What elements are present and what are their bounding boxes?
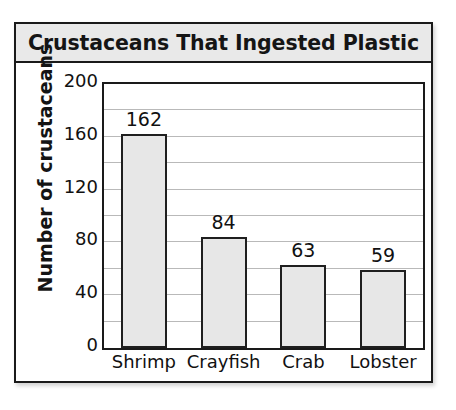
y-tick-label: 160 <box>52 125 98 143</box>
chart-title-band: Crustaceans That Ingested Plastic <box>16 24 431 63</box>
x-tick-label-crab: Crab <box>258 353 348 371</box>
bar-crayfish <box>201 237 247 348</box>
y-tick-label: 40 <box>52 283 98 301</box>
x-tick-label-crayfish: Crayfish <box>179 353 269 371</box>
plot-area: 162846359 <box>102 82 425 350</box>
x-axis-tick-labels: ShrimpCrayfishCrabLobster <box>102 353 425 379</box>
x-tick-label-shrimp: Shrimp <box>99 353 189 371</box>
y-tick-label: 0 <box>52 336 98 354</box>
bar-group: 84 <box>201 84 247 348</box>
bar-group: 162 <box>121 84 167 348</box>
y-tick-label: 120 <box>52 178 98 196</box>
bar-shrimp <box>121 134 167 348</box>
page-title: Crustaceans That Ingested Plastic <box>28 31 419 55</box>
y-axis-tick-labels: 20016012080400 <box>48 82 98 346</box>
bar-value-label: 162 <box>126 110 162 129</box>
bar-group: 59 <box>360 84 406 348</box>
bar-value-label: 84 <box>212 213 236 232</box>
y-tick-label: 80 <box>52 230 98 248</box>
chart-body: Number of crustaceans 20016012080400 162… <box>16 63 431 381</box>
chart-card: Crustaceans That Ingested Plastic Number… <box>14 22 433 383</box>
bar-group: 63 <box>280 84 326 348</box>
bars-layer: 162846359 <box>104 84 423 348</box>
bar-value-label: 59 <box>371 246 395 265</box>
x-tick-label-lobster: Lobster <box>338 353 428 371</box>
bar-value-label: 63 <box>291 241 315 260</box>
bar-crab <box>280 265 326 348</box>
y-tick-label: 200 <box>52 72 98 90</box>
bar-lobster <box>360 270 406 348</box>
